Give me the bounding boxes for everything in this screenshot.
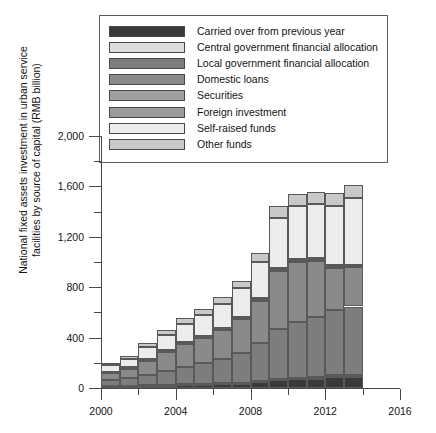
bar-stack[interactable] (269, 206, 288, 388)
legend-item[interactable]: Local government financial allocation (109, 55, 378, 71)
bar-segment[interactable] (120, 359, 139, 368)
bar-segment[interactable] (251, 253, 270, 262)
bar-segment[interactable] (269, 380, 288, 388)
bar-stack[interactable] (101, 363, 120, 388)
bar-segment[interactable] (194, 385, 213, 388)
bar-segment[interactable] (269, 329, 288, 379)
bar-segment[interactable] (344, 307, 363, 375)
bar-segment[interactable] (288, 379, 307, 388)
bar-segment[interactable] (176, 318, 195, 324)
bar-segment[interactable] (213, 330, 232, 359)
bar-segment[interactable] (251, 262, 270, 299)
bar-segment[interactable] (213, 384, 232, 388)
bar-segment[interactable] (101, 380, 120, 386)
bar-segment[interactable] (194, 315, 213, 336)
bar-segment[interactable] (213, 297, 232, 304)
bar-segment[interactable] (194, 363, 213, 384)
bar-stack[interactable] (344, 185, 363, 388)
bar-stack[interactable] (307, 192, 326, 388)
bar-stack[interactable] (232, 281, 251, 388)
bar-segment[interactable] (307, 261, 326, 318)
bar-segment[interactable] (138, 347, 157, 360)
y-axis-tick-minor (94, 262, 101, 263)
legend-item[interactable]: Securities (109, 88, 378, 104)
legend-item[interactable]: Domestic loans (109, 72, 378, 88)
bar-segment[interactable] (232, 281, 251, 288)
bar-segment[interactable] (344, 375, 363, 377)
bar-segment[interactable] (288, 377, 307, 379)
bar-segment[interactable] (307, 377, 326, 379)
legend-swatch-icon (109, 74, 185, 85)
bar-stack[interactable] (213, 297, 232, 388)
bar-segment[interactable] (251, 382, 270, 388)
y-axis-tick-major (89, 237, 101, 238)
bar-segment[interactable] (213, 304, 232, 328)
bar-stack[interactable] (194, 309, 213, 388)
bar-segment[interactable] (101, 365, 120, 372)
bar-segment[interactable] (251, 343, 270, 381)
legend-item-label: Domestic loans (197, 74, 269, 85)
bar-segment[interactable] (288, 194, 307, 206)
bar-segment[interactable] (325, 206, 344, 265)
bar-segment[interactable] (325, 193, 344, 206)
bar-segment[interactable] (176, 344, 195, 367)
bar-segment[interactable] (120, 369, 139, 378)
bar-segment[interactable] (120, 378, 139, 386)
bar-stack[interactable] (120, 356, 139, 388)
bar-segment[interactable] (120, 356, 139, 359)
bar-segment[interactable] (176, 385, 195, 388)
bar-segment[interactable] (325, 310, 344, 376)
bar-segment[interactable] (307, 192, 326, 204)
bar-segment[interactable] (325, 377, 344, 388)
bar-segment[interactable] (157, 386, 176, 388)
bar-segment[interactable] (269, 271, 288, 329)
bar-segment[interactable] (138, 343, 157, 347)
bar-segment[interactable] (101, 373, 120, 380)
bar-stack[interactable] (325, 193, 344, 388)
legend-item[interactable]: Central government financial allocation (109, 39, 378, 55)
bar-stack[interactable] (288, 194, 307, 388)
bar-segment[interactable] (101, 363, 120, 365)
bar-segment[interactable] (232, 353, 251, 383)
bar-segment[interactable] (307, 379, 326, 388)
bar-segment[interactable] (288, 262, 307, 322)
bar-segment[interactable] (269, 218, 288, 268)
bar-segment[interactable] (157, 330, 176, 335)
legend-item[interactable]: Carried over from previous year (109, 23, 378, 39)
bar-segment[interactable] (307, 204, 326, 258)
bar-segment[interactable] (344, 185, 363, 198)
bar-segment[interactable] (232, 384, 251, 388)
bar-segment[interactable] (157, 352, 176, 371)
bar-segment[interactable] (344, 267, 363, 306)
bar-segment[interactable] (288, 322, 307, 377)
legend-item[interactable]: Self-raised funds (109, 120, 378, 136)
bar-segment[interactable] (251, 301, 270, 344)
bar-segment[interactable] (232, 319, 251, 353)
bar-segment[interactable] (138, 361, 157, 375)
bar-segment[interactable] (213, 359, 232, 384)
bar-stack[interactable] (138, 343, 157, 388)
bar-segment[interactable] (176, 367, 195, 385)
bar-segment[interactable] (176, 324, 195, 342)
bar-segment[interactable] (232, 288, 251, 317)
bar-segment[interactable] (138, 375, 157, 386)
bar-segment[interactable] (194, 309, 213, 315)
bar-segment[interactable] (194, 338, 213, 363)
x-axis-tick-minor (213, 389, 214, 395)
bar-segment[interactable] (138, 386, 157, 388)
bar-segment[interactable] (157, 371, 176, 385)
bar-segment[interactable] (344, 377, 363, 388)
bar-segment[interactable] (325, 375, 344, 377)
bar-segment[interactable] (344, 198, 363, 265)
bar-segment[interactable] (325, 268, 344, 310)
y-axis-title-line2: facilities by source of capital (RMB bil… (30, 63, 43, 257)
bar-stack[interactable] (176, 318, 195, 388)
legend-item[interactable]: Foreign investment (109, 104, 378, 120)
legend-item-label: Self-raised funds (197, 123, 276, 134)
bar-segment[interactable] (288, 206, 307, 259)
bar-segment[interactable] (307, 317, 326, 376)
bar-segment[interactable] (269, 206, 288, 217)
bar-stack[interactable] (157, 330, 176, 388)
bar-stack[interactable] (251, 253, 270, 388)
bar-segment[interactable] (157, 335, 176, 351)
